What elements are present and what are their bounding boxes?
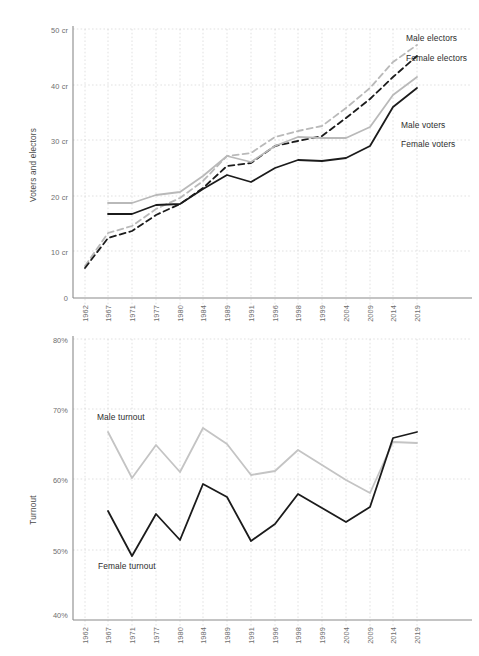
electors-xtick-2019: 2019 [413, 305, 422, 322]
turnout-xtick-1996: 1996 [271, 627, 280, 644]
turnout-ytick-70: 70% [53, 406, 68, 415]
electors-xtick-1967: 1967 [104, 305, 113, 322]
electors-ytick-20: 20 cr [51, 193, 68, 202]
electors-xtick-1991: 1991 [247, 305, 256, 322]
turnout-y-axis-title: Turnout [29, 495, 38, 525]
turnout-svg: Turnout 40% 50% 60% 70% 80% [0, 325, 479, 656]
turnout-ytick-50: 50% [53, 547, 68, 556]
label-female-voters: Female voters [401, 139, 455, 149]
turnout-xtick-2014: 2014 [389, 627, 398, 644]
electors-xtick-2009: 2009 [366, 305, 375, 322]
turnout-vertical-gridlines [85, 339, 417, 633]
electors-ytick-0: 0 [64, 294, 68, 303]
turnout-xtick-1962: 1962 [81, 627, 90, 644]
label-male-electors: Male electors [406, 33, 457, 43]
turnout-ytick-80: 80% [53, 336, 68, 345]
electors-xtick-1971: 1971 [128, 305, 137, 322]
electors-ytick-50: 50 cr [51, 26, 68, 35]
electors-xtick-2004: 2004 [342, 305, 351, 322]
series-male-turnout [108, 428, 417, 493]
electors-xtick-1977: 1977 [152, 305, 161, 322]
label-female-electors: Female electors [406, 53, 467, 63]
electors-xtick-1980: 1980 [176, 305, 185, 322]
electors-xtick-1996: 1996 [271, 305, 280, 322]
turnout-xtick-1967: 1967 [104, 627, 113, 644]
chart-panel-turnout: Turnout 40% 50% 60% 70% 80% [0, 325, 479, 656]
electors-x-tick-labels: 1962 1967 1971 1977 1980 1984 1989 1991 … [81, 305, 422, 322]
electors-y-axis-title: Voters and electors [29, 128, 38, 202]
turnout-xtick-1971: 1971 [128, 627, 137, 644]
turnout-xtick-1999: 1999 [318, 627, 327, 644]
turnout-xtick-1977: 1977 [152, 627, 161, 644]
electors-xtick-1989: 1989 [223, 305, 232, 322]
turnout-xtick-2004: 2004 [342, 627, 351, 644]
electors-vertical-gridlines [85, 29, 417, 312]
turnout-horizontal-gridlines [73, 339, 470, 550]
label-male-voters: Male voters [401, 120, 445, 130]
turnout-x-tick-labels: 1962 1967 1971 1977 1980 1984 1989 1991 … [81, 627, 422, 644]
turnout-xtick-2019: 2019 [413, 627, 422, 644]
series-female-turnout [108, 432, 417, 556]
electors-xtick-1984: 1984 [199, 305, 208, 322]
label-male-turnout: Male turnout [97, 412, 145, 422]
label-female-turnout: Female turnout [98, 561, 156, 571]
figure-voters-electors-turnout: Voters and electors 0 10 cr 20 cr 30 cr … [0, 0, 479, 656]
electors-xtick-2014: 2014 [389, 305, 398, 322]
turnout-xtick-1980: 1980 [176, 627, 185, 644]
turnout-ytick-60: 60% [53, 476, 68, 485]
turnout-xtick-1991: 1991 [247, 627, 256, 644]
turnout-xtick-2009: 2009 [366, 627, 375, 644]
turnout-xtick-1989: 1989 [223, 627, 232, 644]
turnout-xtick-1998: 1998 [294, 627, 303, 644]
electors-ytick-40: 40 cr [51, 82, 68, 91]
turnout-ytick-40: 40% [53, 611, 68, 620]
electors-ytick-30: 30 cr [51, 137, 68, 146]
electors-xtick-1962: 1962 [81, 305, 90, 322]
electors-xtick-1998: 1998 [294, 305, 303, 322]
chart-panel-electors: Voters and electors 0 10 cr 20 cr 30 cr … [0, 0, 479, 335]
electors-xtick-1999: 1999 [318, 305, 327, 322]
electors-ytick-10: 10 cr [51, 248, 68, 257]
electors-svg: Voters and electors 0 10 cr 20 cr 30 cr … [0, 0, 479, 335]
turnout-xtick-1984: 1984 [199, 627, 208, 644]
